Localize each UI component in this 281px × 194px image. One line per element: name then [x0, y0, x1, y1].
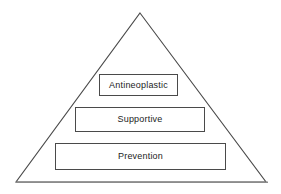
- pyramid-tier-label: Supportive: [117, 114, 162, 125]
- pyramid-tier-supportive: Supportive: [75, 107, 205, 132]
- pyramid-tier-prevention: Prevention: [55, 143, 226, 170]
- pyramid-tier-label: Prevention: [118, 151, 163, 162]
- pyramid-tier-antineoplastic: Antineoplastic: [99, 74, 178, 96]
- pyramid-diagram: Antineoplastic Supportive Prevention: [0, 0, 281, 194]
- pyramid-tier-label: Antineoplastic: [109, 80, 168, 91]
